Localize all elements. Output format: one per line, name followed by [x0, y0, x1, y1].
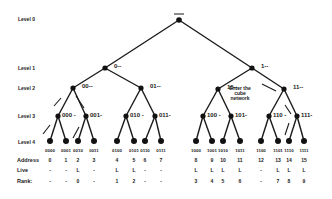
leaf-rank: 8 [288, 178, 291, 184]
leaf-rank: - [93, 178, 95, 184]
leaf-bits: 0001 [61, 148, 71, 153]
leaf-bits: 1000 [191, 148, 201, 153]
leaf-rank: 4 [211, 178, 214, 184]
leaf-rank: 2 [133, 178, 136, 184]
tree-edge [145, 116, 155, 141]
tree-node [102, 65, 107, 70]
leaf-rank: 0 [77, 178, 80, 184]
level-label-4: Level 4 [18, 139, 35, 145]
tree-node [75, 138, 81, 144]
tree-edge [54, 98, 61, 106]
leaf-rank: 9 [303, 178, 306, 184]
tree-node [237, 138, 243, 144]
leaf-live: L [194, 167, 197, 173]
leaf-live: - [93, 167, 95, 173]
tree-edge [58, 116, 66, 141]
leaf-live: L [76, 167, 79, 173]
tree-node [200, 113, 205, 118]
level2-node-label: 01-- [150, 83, 161, 89]
leaf-bits: 0010 [73, 148, 83, 153]
leaf-live: L [287, 167, 290, 173]
tree-node [63, 138, 69, 144]
leaf-live: L [276, 167, 279, 173]
level-label-2: Level 2 [18, 85, 35, 91]
tree-edge [297, 116, 304, 141]
tree-edge [73, 127, 79, 138]
tree-node [249, 65, 254, 70]
tree-edge [203, 116, 212, 141]
tree-node [176, 17, 182, 23]
tree-node [142, 138, 148, 144]
leaf-address: 1 [65, 157, 68, 163]
level3-node-label: 011- [159, 112, 171, 118]
tree-node [215, 86, 220, 91]
leaf-bits: 1110 [284, 148, 293, 153]
binary-tree-diagram: Level 0Level 1Level 2Level 3Level 4 0--1… [0, 0, 332, 199]
tree-edge [76, 96, 84, 108]
tree-edge [105, 68, 141, 88]
leaf-address: 6 [144, 157, 147, 163]
tree-edge [231, 116, 240, 141]
tree-node [131, 138, 137, 144]
leaf-address: 9 [211, 157, 214, 163]
leaf-live: L [302, 167, 305, 173]
leaf-address: 5 [133, 157, 136, 163]
level-label-3: Level 3 [18, 113, 35, 119]
leaf-bits: 0101 [129, 148, 139, 153]
tree-edge [155, 116, 161, 141]
tree-node [138, 85, 143, 90]
leaf-rank: - [160, 178, 162, 184]
leaf-rank: - [49, 178, 51, 184]
tree-edge [269, 116, 278, 141]
enter-cube-network-annotation: Enter the cube network [222, 86, 258, 101]
leaf-live: L [221, 167, 224, 173]
level1-node-label: 0-- [114, 63, 121, 69]
leaf-bits: 1010 [218, 148, 228, 153]
leaf-address: 10 [220, 157, 226, 163]
leaf-address: 13 [275, 157, 281, 163]
level1-node-label: 1-- [261, 63, 268, 69]
tree-edge [86, 116, 94, 141]
tree-node [70, 85, 75, 90]
leaf-rank: 1 [116, 178, 119, 184]
tree-node [193, 138, 199, 144]
leaf-address: 2 [77, 157, 80, 163]
leaf-address: 3 [93, 157, 96, 163]
level2-node-label: 11-- [293, 84, 303, 90]
leaf-address: 12 [258, 157, 264, 163]
tree-edge [179, 20, 252, 68]
address-row-label: Address [17, 157, 39, 163]
tree-node [123, 113, 128, 118]
leaf-bits: 0000 [45, 148, 55, 153]
level3-node-label: 111- [301, 112, 312, 118]
live-row-label: Live [17, 167, 28, 173]
leaf-live: L [132, 167, 135, 173]
tree-node [281, 86, 286, 91]
annotation-line: network [222, 96, 258, 101]
tree-node [275, 138, 281, 144]
tree-node [301, 138, 307, 144]
leaf-address: 0 [49, 157, 52, 163]
leaf-address: 8 [195, 157, 198, 163]
leaf-bits: 0100 [112, 148, 122, 153]
level3-node-label: 100 - [207, 112, 221, 118]
tree-edge [117, 116, 126, 141]
leaf-live: L [210, 167, 213, 173]
tree-edge [43, 125, 50, 134]
level3-node-label: 000 - [62, 112, 76, 118]
tree-node [114, 138, 120, 144]
leaf-rank: 6 [239, 178, 242, 184]
level-label-0: Level 0 [18, 16, 35, 22]
leaf-bits: 1111 [299, 148, 308, 153]
leaf-address: 15 [301, 157, 307, 163]
leaf-live: L [238, 167, 241, 173]
tree-edge [261, 116, 269, 141]
leaf-live: - [160, 167, 162, 173]
tree-node [209, 138, 215, 144]
rank-row-label: Rank: [17, 178, 32, 184]
leaf-address: 11 [237, 157, 242, 163]
level3-node-label: 110 - [273, 112, 286, 118]
tree-node [91, 138, 97, 144]
leaf-address: 14 [286, 157, 292, 163]
tree-node [266, 113, 271, 118]
